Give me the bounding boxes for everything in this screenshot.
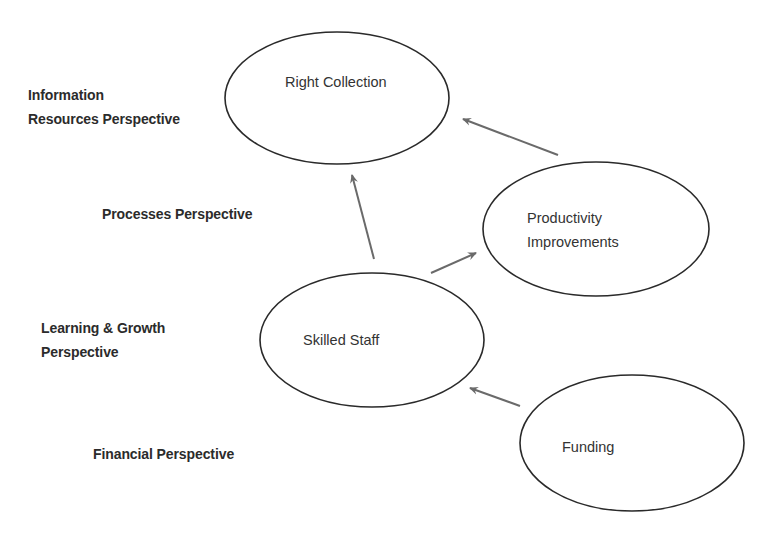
arrow-skilled-staff-to-productivity <box>431 253 476 273</box>
node-shape-right-collection <box>225 32 449 164</box>
arrow-productivity-to-right-collection <box>463 119 558 155</box>
arrow-funding-to-skilled-staff <box>470 388 520 406</box>
node-shape-funding <box>520 375 744 511</box>
node-label-productivity: Productivity Improvements <box>527 206 619 254</box>
node-label-right-collection: Right Collection <box>285 70 387 94</box>
perspective-label-learning: Learning & Growth Perspective <box>41 316 165 364</box>
perspective-label-information: Information Resources Perspective <box>28 83 180 131</box>
perspective-label-financial: Financial Perspective <box>93 442 234 466</box>
perspective-label-processes: Processes Perspective <box>102 202 252 226</box>
node-label-funding: Funding <box>562 435 614 459</box>
node-label-skilled-staff: Skilled Staff <box>303 328 379 352</box>
arrow-skilled-staff-to-right-collection <box>352 175 374 259</box>
